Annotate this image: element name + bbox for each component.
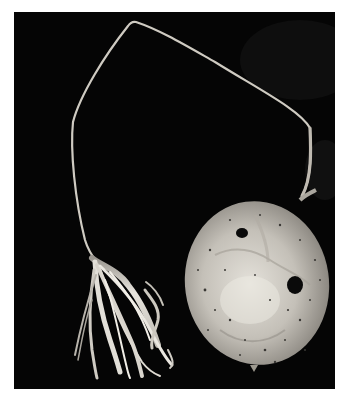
hole-lower [287, 276, 303, 294]
hole-upper [236, 228, 248, 238]
photo-scene [14, 12, 335, 389]
photograph [14, 12, 335, 389]
